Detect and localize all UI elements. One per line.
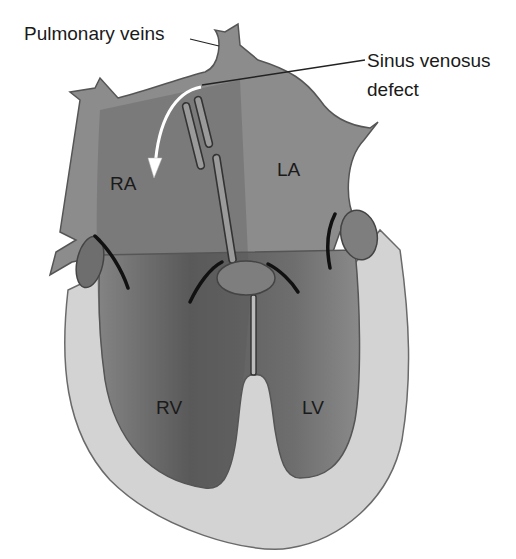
ventricular-septum xyxy=(251,295,256,375)
heart-diagram xyxy=(0,0,516,559)
label-pulmonary-veins: Pulmonary veins xyxy=(24,22,164,45)
pulmonary-veins-pointer xyxy=(190,39,219,46)
label-ra: RA xyxy=(110,174,136,194)
central-valve xyxy=(217,261,275,295)
label-defect: defect xyxy=(367,78,419,101)
label-rv: RV xyxy=(156,398,182,418)
label-la: LA xyxy=(277,160,300,180)
label-lv: LV xyxy=(302,398,324,418)
label-sinus-venosus: Sinus venosus xyxy=(367,49,491,72)
